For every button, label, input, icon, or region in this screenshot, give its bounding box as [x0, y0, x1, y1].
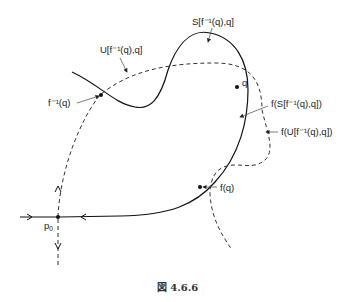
point-p0	[56, 215, 60, 219]
label-f-q: f(q)	[220, 182, 234, 193]
label-f-of-s: f(S[f⁻¹(q),q])	[271, 98, 322, 109]
leader-u-segment	[120, 58, 127, 72]
homoclinic-diagram: U[f⁻¹(q),q] f⁻¹(q) S[f⁻¹(q),q] q f(S[f⁻¹…	[0, 0, 355, 302]
label-p0: p0	[44, 220, 53, 232]
leader-s-segment	[208, 28, 212, 42]
unstable-manifold-curve	[58, 63, 270, 250]
stable-manifold-curve	[20, 32, 248, 217]
point-q	[235, 85, 239, 89]
arrow-up-icon	[55, 186, 61, 192]
figure-caption: 図 4.6.6	[0, 279, 355, 294]
label-u-segment: U[f⁻¹(q),q]	[100, 44, 142, 55]
label-f-of-u: f(U[f⁻¹(q),q])	[281, 126, 332, 137]
label-s-segment: S[f⁻¹(q),q]	[192, 16, 234, 27]
point-f-q	[198, 185, 202, 189]
label-q: q	[242, 77, 247, 88]
point-f-inv-q	[99, 93, 103, 97]
leader-f-of-s	[240, 106, 268, 117]
label-f-inv-q: f⁻¹(q)	[48, 97, 70, 108]
leader-f-inv-q	[77, 96, 99, 103]
